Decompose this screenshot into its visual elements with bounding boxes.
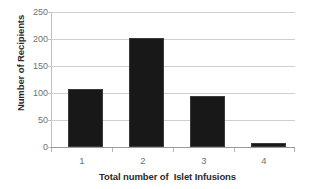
bar-category-4 (251, 143, 286, 147)
bar-category-3 (190, 96, 225, 147)
x-tick-mark-start (51, 148, 52, 152)
plot-area (51, 12, 295, 147)
y-tick-label-150: 150 (18, 61, 48, 71)
y-tick-label-50: 50 (18, 115, 48, 125)
bar-category-2 (129, 38, 164, 147)
bar-category-1 (68, 89, 103, 147)
x-axis-title: Total number of Islet Infusions (40, 171, 295, 182)
x-tick-label-3: 3 (184, 155, 224, 167)
x-tick-mark-3 (234, 148, 235, 152)
x-tick-mark-end (294, 148, 295, 152)
y-tick-label-0: 0 (18, 142, 48, 152)
gridline-250 (51, 12, 295, 13)
x-tick-mark-2 (173, 148, 174, 152)
gridline-150 (51, 66, 295, 67)
y-tick-label-100: 100 (18, 88, 48, 98)
gridline-200 (51, 39, 295, 40)
x-tick-label-2: 2 (123, 155, 163, 167)
x-tick-mark-1 (112, 148, 113, 152)
y-tick-label-250: 250 (18, 7, 48, 17)
x-tick-label-1: 1 (62, 155, 102, 167)
y-axis-tick-labels: 250 200 150 100 50 0 (18, 0, 48, 189)
x-tick-label-4: 4 (244, 155, 284, 167)
y-tick-label-200: 200 (18, 34, 48, 44)
bar-chart: Number of Recipients 250 200 150 100 50 … (0, 0, 311, 189)
